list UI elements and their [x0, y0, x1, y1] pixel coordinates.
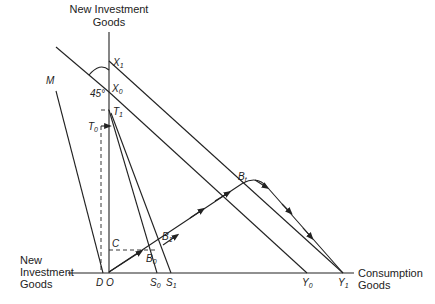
y-axis-title-line1: New Investment: [70, 3, 149, 15]
label-y1: Y1: [338, 277, 349, 289]
x1-y1-line: [109, 61, 343, 273]
angle-label: 45°: [90, 88, 105, 99]
x-left-title-line3: Goods: [20, 278, 53, 290]
label-y0: Y0: [302, 277, 313, 289]
y-axis-title-line2: Goods: [93, 16, 126, 28]
x-left-title-line1: New: [20, 254, 42, 266]
upper-left-line: [56, 47, 109, 92]
m-line: [56, 91, 103, 273]
label-x0: X0: [111, 83, 123, 95]
label-b0: B0: [146, 253, 157, 265]
label-t1: T1: [113, 106, 123, 118]
label-t0: T0: [88, 121, 98, 133]
label-m: M: [46, 75, 55, 86]
x-right-title-line2: Goods: [358, 279, 391, 291]
x-left-title-line2: Investment: [20, 266, 74, 278]
investment-consumption-diagram: New Investment Goods New Investment Good…: [0, 0, 435, 304]
x0-y0-line: [109, 92, 307, 273]
path-arrow-3: [190, 210, 202, 218]
x-right-title-line1: Consumption: [358, 267, 423, 279]
path-arrow-7: [303, 228, 311, 237]
label-b1: B1: [162, 231, 173, 243]
path-arrow-6: [282, 204, 290, 212]
label-s1: S1: [166, 277, 177, 289]
diagram-canvas: New Investment Goods New Investment Good…: [0, 0, 435, 304]
label-s0: S0: [150, 277, 161, 289]
label-d: D: [96, 277, 103, 288]
label-bt: Bt: [238, 171, 248, 183]
path-arrow-1: [109, 252, 140, 272]
angle-arc: [89, 67, 109, 75]
t-s1-line: [111, 113, 171, 273]
label-x1: X1: [112, 57, 124, 69]
label-c: C: [112, 238, 120, 249]
label-o: O: [106, 277, 114, 288]
